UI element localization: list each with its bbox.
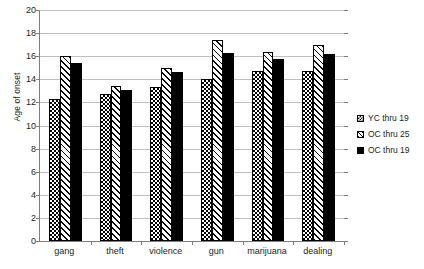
bar-gun-yc-thru-19 xyxy=(201,79,212,241)
bar-gun-oc-thru-25 xyxy=(212,40,223,241)
y-tick-right-8 xyxy=(344,149,348,150)
y-tick-right-14 xyxy=(344,79,348,80)
bar-dealing-yc-thru-19 xyxy=(302,71,313,241)
legend-swatch-icon-0 xyxy=(357,115,364,122)
bar-violence-oc-thru-25 xyxy=(161,68,172,241)
x-axis-tick-labels: gangtheftviolencegunmarijuanadealing xyxy=(39,246,343,266)
legend-label: YC thru 19 xyxy=(368,114,409,123)
x-tick-label-violence: violence xyxy=(149,246,182,257)
legend-label: OC thru 25 xyxy=(368,130,410,139)
plot-area xyxy=(39,10,344,241)
bar-theft-oc-thru-19 xyxy=(121,90,132,241)
x-separator-2 xyxy=(192,241,193,245)
x-tick-label-theft: theft xyxy=(106,246,124,257)
y-tick-left-0 xyxy=(36,241,40,242)
legend-swatch-icon-1 xyxy=(357,131,364,138)
y-tick-label-20: 20 xyxy=(26,6,36,15)
bar-group-gang xyxy=(40,10,91,241)
y-tick-right-20 xyxy=(344,10,348,11)
y-tick-right-10 xyxy=(344,126,348,127)
legend-label: OC thru 19 xyxy=(368,146,410,155)
bar-gang-oc-thru-19 xyxy=(71,63,82,241)
bar-violence-yc-thru-19 xyxy=(150,87,161,241)
bar-group-gun xyxy=(192,10,243,241)
x-separator-5 xyxy=(344,241,345,245)
x-tick-label-marijuana: marijuana xyxy=(247,246,287,257)
x-tick-label-gun: gun xyxy=(209,246,224,257)
x-separator-1 xyxy=(141,241,142,245)
bar-group-marijuana xyxy=(243,10,294,241)
bar-dealing-oc-thru-19 xyxy=(324,54,335,241)
bar-gun-oc-thru-19 xyxy=(223,53,234,241)
y-tick-right-16 xyxy=(344,56,348,57)
x-separator-0 xyxy=(91,241,92,245)
bar-theft-yc-thru-19 xyxy=(100,94,111,241)
y-tick-label-10: 10 xyxy=(26,121,36,130)
bars-layer xyxy=(40,10,344,241)
bar-gang-oc-thru-25 xyxy=(60,56,71,241)
legend-item-oc-thru-25: OC thru 25 xyxy=(357,130,410,139)
bar-theft-oc-thru-25 xyxy=(111,86,122,241)
x-separator-4 xyxy=(293,241,294,245)
bar-chart: Age of onset 02468101214161820 gangtheft… xyxy=(0,0,424,269)
y-tick-right-12 xyxy=(344,102,348,103)
y-tick-right-2 xyxy=(344,218,348,219)
bar-dealing-oc-thru-25 xyxy=(313,45,324,241)
legend-item-yc-thru-19: YC thru 19 xyxy=(357,114,410,123)
bar-violence-oc-thru-19 xyxy=(172,72,183,241)
y-tick-right-6 xyxy=(344,172,348,173)
bar-gang-yc-thru-19 xyxy=(49,99,60,241)
legend: YC thru 19OC thru 25OC thru 19 xyxy=(357,114,410,155)
y-tick-right-4 xyxy=(344,195,348,196)
y-tick-label-16: 16 xyxy=(26,52,36,61)
y-tick-label-18: 18 xyxy=(26,29,36,38)
bar-group-dealing xyxy=(293,10,344,241)
x-separator-3 xyxy=(243,241,244,245)
bar-marijuana-oc-thru-25 xyxy=(263,52,274,241)
legend-swatch-icon-2 xyxy=(357,147,364,154)
y-tick-right-18 xyxy=(344,33,348,34)
x-tick-label-gang: gang xyxy=(54,246,74,257)
bar-marijuana-oc-thru-19 xyxy=(273,59,284,241)
y-axis-tick-labels: 02468101214161820 xyxy=(14,0,36,269)
bar-marijuana-yc-thru-19 xyxy=(252,71,263,241)
legend-item-oc-thru-19: OC thru 19 xyxy=(357,146,410,155)
y-tick-label-12: 12 xyxy=(26,98,36,107)
bar-group-theft xyxy=(91,10,142,241)
bar-group-violence xyxy=(141,10,192,241)
x-tick-label-dealing: dealing xyxy=(303,246,332,257)
y-tick-label-14: 14 xyxy=(26,75,36,84)
